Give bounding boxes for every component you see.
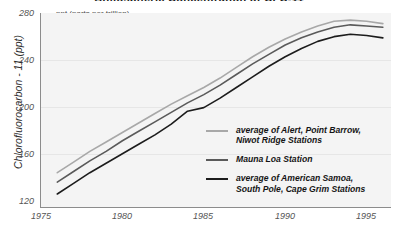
legend-item-samoa-southpole-capegrim: average of American Samoa, South Pole, C… [206,173,396,193]
x-tick-0: 1975 [31,211,51,221]
y-tick-4: 120 [0,196,34,206]
legend-line-swatch-1 [206,159,228,161]
legend: average of Alert, Point Barrow, Niwot Ri… [206,125,396,200]
legend-label-2: average of American Samoa, South Pole, C… [236,173,365,193]
legend-item-alert-barrow-niwot: average of Alert, Point Barrow, Niwot Ri… [206,125,396,145]
y-tick-0: 280 [0,8,34,18]
x-tick-3: 1990 [275,211,295,221]
legend-line-swatch-0 [206,130,228,132]
cfc11-line-chart: Atmospheric Concentration of CFC-11 280 … [0,0,398,236]
y-axis-label: Chlorofluorocarbon - 11 (ppt) [12,22,24,182]
legend-line-swatch-2 [206,178,228,180]
x-tick-4: 1995 [356,211,376,221]
legend-label-0: average of Alert, Point Barrow, Niwot Ri… [236,125,361,145]
legend-item-mauna-loa: Mauna Loa Station [206,154,396,164]
x-tick-2: 1985 [193,211,213,221]
legend-label-1: Mauna Loa Station [236,154,312,164]
chart-title: Atmospheric Concentration of CFC-11 [0,0,398,1]
x-tick-1: 1980 [112,211,132,221]
x-axis-tick-labels: 1975 1980 1985 1990 1995 [0,211,398,229]
